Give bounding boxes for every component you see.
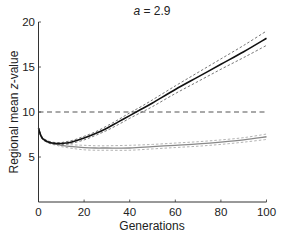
x-axis-title: Generations — [119, 219, 184, 233]
x-tick-label: 80 — [215, 206, 228, 218]
line-chart: a = 2.9 0204060801005101520 GenerationsR… — [0, 0, 285, 237]
x-tick-label: 40 — [123, 206, 136, 218]
plot-area — [39, 31, 267, 150]
series-black-mean — [39, 38, 267, 143]
axis-labels: GenerationsRegional mean z-value — [7, 50, 185, 233]
y-tick-label: 20 — [22, 16, 35, 28]
x-tick-label: 20 — [78, 206, 91, 218]
y-tick-label: 5 — [29, 151, 35, 163]
x-tick-label: 60 — [169, 206, 182, 218]
chart-title-text: a = 2.9 — [133, 4, 170, 18]
series-black-lower — [39, 45, 267, 144]
y-tick-label: 15 — [22, 61, 35, 73]
x-tick-label: 100 — [257, 206, 276, 218]
y-tick-label: 10 — [22, 106, 35, 118]
y-axis-title: Regional mean z-value — [7, 50, 21, 173]
series-black-upper — [39, 31, 267, 143]
axes: 0204060801005101520 — [22, 16, 276, 218]
x-tick-label: 0 — [35, 206, 41, 218]
chart-title: a = 2.9 — [133, 4, 170, 18]
